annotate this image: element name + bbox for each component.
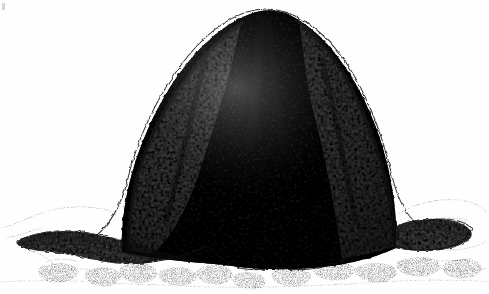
scan-fleck: [2, 3, 5, 10]
illustration-figure: Sea star in humped feeding posture Black…: [0, 0, 489, 294]
sea-star-illustration: Sea star in humped feeding posture Black…: [0, 0, 489, 294]
